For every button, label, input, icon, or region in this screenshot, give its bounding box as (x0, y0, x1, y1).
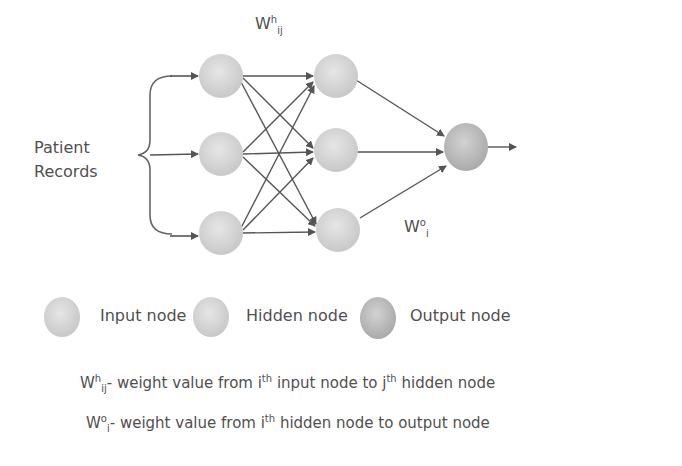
def-text: - weight value from i (107, 374, 262, 392)
def-sup: th (262, 373, 272, 384)
legend-output-node-icon (360, 297, 396, 339)
output-weight-label: Woi (404, 217, 429, 239)
weight-base: W (404, 217, 420, 236)
legend-hidden-node-icon (193, 297, 229, 337)
hidden-node-2 (314, 128, 358, 172)
definition-hidden-weight: Whij- weight value from ith input node t… (80, 373, 495, 394)
output-node (444, 123, 488, 171)
input-node-3 (199, 211, 243, 255)
patient-label: Patient (34, 136, 98, 160)
weight-base: W (255, 14, 271, 33)
def-text: hidden node to output node (275, 414, 490, 432)
def-base: W (86, 414, 101, 432)
def-text: hidden node (397, 374, 495, 392)
neural-network-diagram (0, 0, 682, 466)
def-sup: th (265, 413, 275, 424)
legend-hidden-label: Hidden node (246, 306, 348, 325)
legend-output-label: Output node (410, 306, 511, 325)
hidden-node-1 (314, 54, 358, 98)
hidden-node-3 (316, 208, 360, 252)
hidden-weight-label: Whij (255, 14, 283, 36)
def-sup: th (386, 373, 396, 384)
weight-sub: ij (277, 25, 283, 36)
def-text: input node to j (272, 374, 386, 392)
def-base: W (80, 374, 95, 392)
legend-input-node-icon (44, 297, 80, 337)
weight-sup: o (420, 217, 426, 228)
patient-records-label: Patient Records (34, 136, 98, 184)
input-node-2 (199, 132, 243, 176)
def-text: - weight value from i (110, 414, 265, 432)
definition-output-weight: Woi- weight value from ith hidden node t… (86, 413, 490, 434)
records-label: Records (34, 160, 98, 184)
weight-sub: i (426, 228, 429, 239)
weight-sup: h (271, 14, 277, 25)
legend-input-label: Input node (100, 306, 186, 325)
input-node-1 (199, 54, 243, 98)
input-arrow-2 (150, 154, 198, 155)
